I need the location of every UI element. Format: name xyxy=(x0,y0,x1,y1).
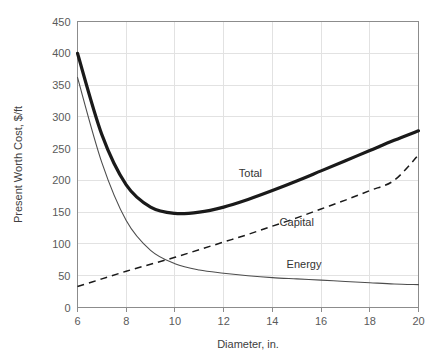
plot-area-border xyxy=(78,22,419,308)
svg-text:18: 18 xyxy=(364,315,376,327)
svg-text:100: 100 xyxy=(52,238,70,250)
x-axis-tick-labels: 68101214161820 xyxy=(74,315,424,327)
svg-text:0: 0 xyxy=(64,302,70,314)
y-axis-tick-labels: 050100150200250300350400450 xyxy=(52,16,70,314)
svg-text:20: 20 xyxy=(412,315,424,327)
series-label-total: Total xyxy=(239,167,262,179)
svg-text:200: 200 xyxy=(52,174,70,186)
svg-text:150: 150 xyxy=(52,206,70,218)
svg-text:6: 6 xyxy=(74,315,80,327)
svg-text:50: 50 xyxy=(58,270,70,282)
horizontal-gridlines xyxy=(78,22,419,276)
svg-text:400: 400 xyxy=(52,47,70,59)
svg-text:250: 250 xyxy=(52,143,70,155)
series-line-total xyxy=(78,53,419,213)
svg-text:12: 12 xyxy=(218,315,230,327)
y-axis-title: Present Worth Cost, $/ft xyxy=(12,106,24,223)
svg-text:14: 14 xyxy=(266,315,278,327)
svg-text:10: 10 xyxy=(169,315,181,327)
series-inline-labels: TotalCapitalEnergy xyxy=(239,167,322,270)
svg-text:350: 350 xyxy=(52,79,70,91)
chart-container: 050100150200250300350400450 681012141618… xyxy=(0,0,446,363)
svg-text:16: 16 xyxy=(315,315,327,327)
series-label-energy: Energy xyxy=(287,258,322,270)
svg-text:450: 450 xyxy=(52,16,70,28)
x-axis-tick-marks xyxy=(78,308,419,312)
present-worth-cost-line-chart: 050100150200250300350400450 681012141618… xyxy=(0,0,446,363)
x-axis-title: Diameter, in. xyxy=(217,338,279,350)
svg-text:300: 300 xyxy=(52,111,70,123)
series-line-energy xyxy=(78,77,419,284)
series-label-capital: Capital xyxy=(280,216,314,228)
svg-text:8: 8 xyxy=(123,315,129,327)
